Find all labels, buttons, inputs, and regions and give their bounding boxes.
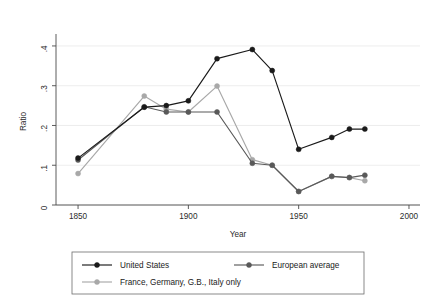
series-line [78, 86, 365, 191]
data-point [250, 47, 255, 52]
data-point [215, 109, 220, 114]
legend-label: France, Germany, G.B., Italy only [120, 278, 242, 287]
data-point [362, 127, 367, 132]
data-point [362, 178, 367, 183]
legend-marker [95, 280, 100, 285]
data-point [164, 103, 169, 108]
chart-legend: United StatesEuropean averageFrance, Ger… [72, 252, 364, 294]
series-line [78, 50, 365, 159]
line-chart: 0.1.2.3.41850190019502000 Ratio Year Uni… [0, 0, 436, 306]
data-point [296, 147, 301, 152]
x-axis-title: Year [230, 230, 247, 239]
legend-marker [95, 263, 100, 268]
data-point [329, 174, 334, 179]
data-point [76, 156, 81, 161]
y-tick-label: .1 [40, 164, 49, 171]
data-point [296, 189, 301, 194]
series-group [76, 47, 368, 194]
data-point [215, 56, 220, 61]
data-point [347, 175, 352, 180]
data-point [215, 84, 220, 89]
data-point [186, 109, 191, 114]
legend-label: United States [120, 261, 169, 270]
axis-tick-labels: 0.1.2.3.41850190019502000 [40, 45, 419, 221]
legend-box [72, 252, 364, 294]
data-point [250, 161, 255, 166]
x-tick-label: 1900 [179, 212, 198, 221]
y-tick-label: 0 [40, 205, 49, 210]
x-tick-label: 1950 [290, 212, 309, 221]
y-tick-label: .3 [40, 85, 49, 92]
y-tick-label: .4 [40, 45, 49, 52]
series-line [78, 107, 365, 192]
data-point [270, 68, 275, 73]
data-point [142, 94, 147, 99]
x-tick-label: 2000 [400, 212, 419, 221]
x-tick-label: 1850 [69, 212, 88, 221]
data-point [362, 173, 367, 178]
data-point [76, 171, 81, 176]
axis-ticks [52, 46, 409, 209]
data-point [142, 105, 147, 110]
chart-figure: 0.1.2.3.41850190019502000 Ratio Year Uni… [0, 0, 436, 306]
data-point [164, 109, 169, 114]
y-axis-title: Ratio [19, 112, 28, 132]
data-point [329, 135, 334, 140]
data-point [186, 98, 191, 103]
legend-label: European average [272, 261, 340, 270]
data-point [347, 127, 352, 132]
data-point [270, 163, 275, 168]
y-tick-label: .2 [40, 125, 49, 132]
legend-marker [247, 263, 252, 268]
